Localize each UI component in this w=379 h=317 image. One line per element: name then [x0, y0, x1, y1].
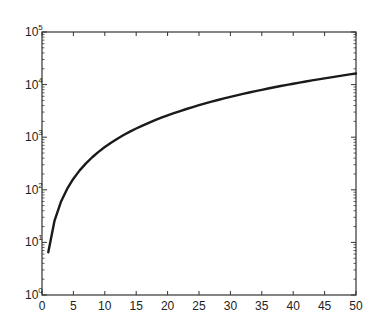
- y-tick-label: 101: [25, 233, 43, 249]
- x-tick-label: 50: [349, 299, 363, 313]
- x-tick-label: 30: [224, 299, 238, 313]
- y-axis-ticks: [42, 32, 356, 295]
- data-line: [48, 74, 356, 253]
- x-tick-label: 45: [318, 299, 332, 313]
- y-tick-label: 104: [25, 76, 43, 92]
- x-tick-label: 15: [130, 299, 144, 313]
- x-tick-label: 0: [39, 299, 46, 313]
- x-tick-label: 40: [287, 299, 301, 313]
- x-tick-label: 5: [70, 299, 77, 313]
- x-tick-label: 20: [161, 299, 175, 313]
- chart: 05101520253035404550 100101102103104105: [0, 0, 379, 317]
- plot-frame: [42, 32, 356, 295]
- y-axis-tick-labels: 100101102103104105: [25, 23, 43, 302]
- y-tick-label: 102: [25, 181, 43, 197]
- x-tick-label: 10: [98, 299, 112, 313]
- y-tick-label: 105: [25, 23, 43, 39]
- y-tick-label: 103: [25, 128, 43, 144]
- x-axis-tick-labels: 05101520253035404550: [39, 299, 363, 313]
- x-tick-label: 25: [192, 299, 206, 313]
- x-axis-ticks: [42, 32, 356, 295]
- x-tick-label: 35: [255, 299, 269, 313]
